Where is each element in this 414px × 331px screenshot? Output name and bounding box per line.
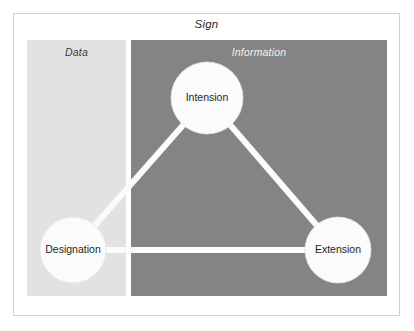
- node-intension[interactable]: Intension: [171, 62, 243, 134]
- diagram-canvas: Sign Data Information IntensionDesignati…: [0, 0, 414, 331]
- node-label-intension: Intension: [186, 91, 229, 103]
- diagram-title-sign: Sign: [13, 18, 400, 30]
- node-label-designation: Designation: [45, 243, 101, 255]
- node-extension[interactable]: Extension: [305, 217, 371, 283]
- node-label-extension: Extension: [315, 243, 361, 255]
- panel-label-information: Information: [131, 46, 387, 58]
- panel-label-data: Data: [27, 46, 126, 58]
- node-designation[interactable]: Designation: [40, 217, 106, 283]
